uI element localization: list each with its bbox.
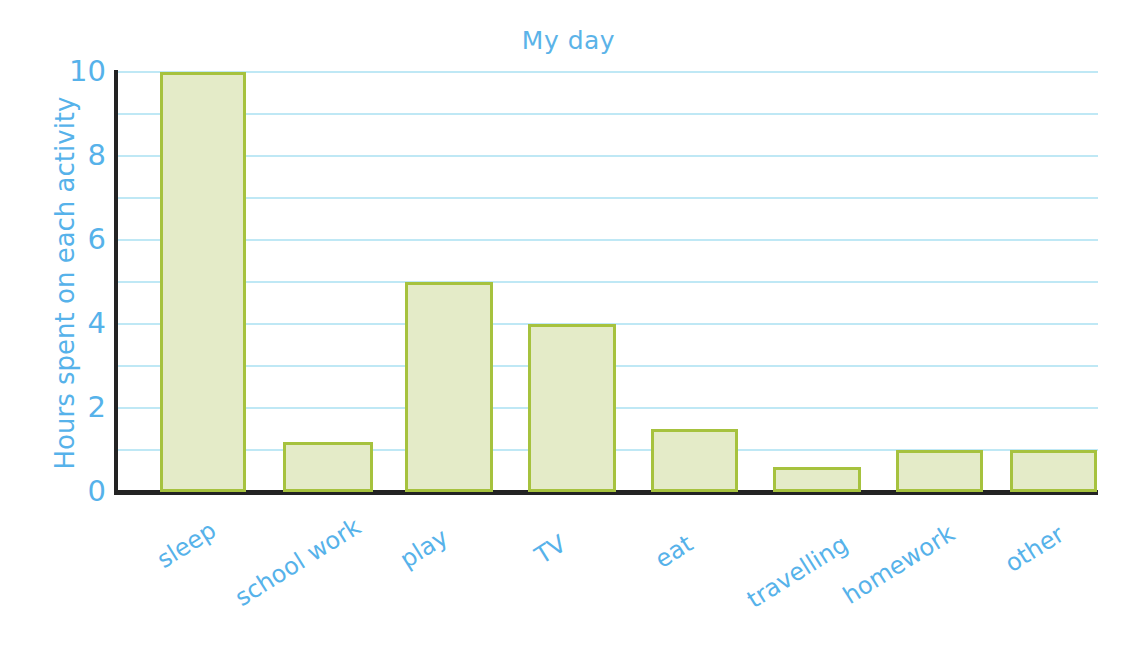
y-tick-label: 10 <box>60 57 106 86</box>
y-tick-label: 4 <box>60 309 106 338</box>
bar <box>405 282 493 492</box>
x-tick-label: homework <box>838 519 960 610</box>
x-axis-tick-labels: sleepschool workplayTVeattravellinghomew… <box>0 498 1137 648</box>
x-tick-label: other <box>1000 520 1069 578</box>
y-tick-label: 6 <box>60 225 106 254</box>
x-tick-label: travelling <box>742 530 853 614</box>
x-tick-label: play <box>395 523 453 574</box>
y-tick-label: 2 <box>60 393 106 422</box>
x-tick-label: school work <box>230 512 366 611</box>
bar <box>1010 450 1097 492</box>
bar-series <box>117 72 1098 492</box>
bar <box>773 467 861 492</box>
x-tick-label: eat <box>650 529 698 573</box>
chart-title: My day <box>0 26 1137 55</box>
y-tick-label: 8 <box>60 141 106 170</box>
bar <box>528 324 616 492</box>
bar <box>651 429 738 492</box>
chart-canvas: My day Hours spent on each activity 0246… <box>0 0 1137 659</box>
bar <box>896 450 983 492</box>
x-tick-label: TV <box>530 530 571 570</box>
x-tick-label: sleep <box>152 516 221 574</box>
bar <box>283 442 373 492</box>
bar <box>160 72 246 492</box>
